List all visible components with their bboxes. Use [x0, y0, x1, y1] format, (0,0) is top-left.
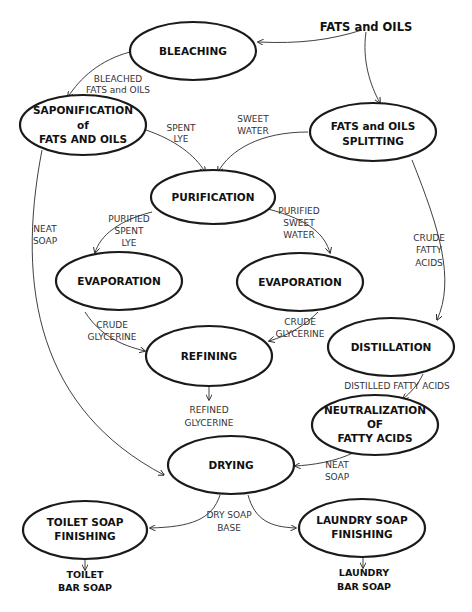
label-purified-sweet-water: SWEET [283, 218, 315, 228]
node-label: DISTILLATION [351, 341, 432, 353]
node-distillation[interactable]: DISTILLATION [328, 318, 454, 376]
label-purified-sweet-water: WATER [283, 230, 314, 240]
label-spent-lye: SPENT [166, 123, 196, 133]
source-fats-and-oils: FATS and OILS [320, 20, 413, 34]
node-label: EVAPORATION [77, 275, 161, 287]
label-neat-soap-right: SOAP [325, 472, 350, 482]
label-bleached: FATS and OILS [86, 85, 150, 95]
node-label: BLEACHING [159, 45, 227, 57]
label-sweet-water: WATER [237, 126, 268, 136]
source-label: FATS and OILS [320, 20, 413, 34]
process-flow-diagram: FATS and OILS BLEACHING SAPONIFICATION o… [0, 0, 472, 612]
node-label: FATS AND OILS [39, 133, 127, 145]
node-label: DRYING [208, 459, 253, 471]
label-crude-glycerine-right: CRUDE [284, 317, 316, 327]
product-label: BAR SOAP [337, 581, 391, 592]
product-label: BAR SOAP [58, 582, 112, 593]
label-crude-glycerine-left: GLYCERINE [87, 332, 136, 342]
label-neat-soap-right: NEAT [325, 460, 349, 470]
label-neat-soap: NEAT [33, 224, 57, 234]
label-purified-spent-lye: PURIFIED [108, 214, 149, 224]
node-label: REFINING [181, 350, 237, 362]
node-refining[interactable]: REFINING [146, 326, 272, 386]
label-crude-glycerine-left: CRUDE [96, 320, 128, 330]
node-label: LAUNDRY SOAP [316, 514, 408, 526]
label-crude-fatty-acids: ACIDS [415, 258, 443, 268]
node-drying[interactable]: DRYING [168, 436, 294, 494]
label-crude-fatty-acids: CRUDE [413, 233, 445, 243]
label-bleached: BLEACHED [94, 74, 143, 84]
label-purified-sweet-water: PURIFIED [278, 206, 319, 216]
node-splitting[interactable]: FATS and OILS SPLITTING [310, 103, 436, 161]
label-sweet-water: SWEET [237, 114, 269, 124]
label-crude-glycerine-right: GLYCERINE [275, 329, 324, 339]
label-spent-lye: LYE [173, 134, 188, 144]
node-label: SAPONIFICATION [33, 104, 133, 116]
node-toilet-soap-finishing[interactable]: TOILET SOAP FINISHING [23, 501, 147, 559]
node-label: SPLITTING [342, 135, 404, 147]
node-label: FINISHING [331, 528, 392, 540]
product-laundry-bar-soap: LAUNDRY BAR SOAP [337, 567, 391, 592]
node-laundry-soap-finishing[interactable]: LAUNDRY SOAP FINISHING [299, 499, 425, 557]
node-purification[interactable]: PURIFICATION [151, 170, 275, 224]
label-neat-soap: SOAP [33, 236, 58, 246]
label-distilled-fatty-acids: DISTILLED FATTY ACIDS [344, 381, 450, 391]
node-label: EVAPORATION [258, 276, 342, 288]
label-crude-fatty-acids: FATTY [416, 245, 443, 255]
edge-drying-to-laundry-finishing [248, 495, 296, 528]
node-evaporation-right[interactable]: EVAPORATION [237, 253, 363, 311]
node-label: NEUTRALIZATION [324, 404, 426, 416]
product-label: LAUNDRY [339, 567, 389, 578]
label-purified-spent-lye: LYE [121, 238, 136, 248]
node-saponification[interactable]: SAPONIFICATION of FATS AND OILS [20, 95, 146, 155]
node-neutralization[interactable]: NEUTRALIZATION OF FATTY ACIDS [312, 395, 438, 455]
label-dry-soap-base: DRY SOAP [206, 510, 252, 520]
node-evaporation-left[interactable]: EVAPORATION [56, 252, 182, 310]
edge-saponification-to-drying [32, 150, 164, 475]
node-label: TOILET SOAP [47, 516, 124, 528]
node-label: OF [367, 418, 383, 430]
node-label: FATS and OILS [331, 120, 415, 132]
label-dry-soap-base: BASE [217, 523, 241, 533]
label-refined-glycerine: GLYCERINE [184, 418, 233, 428]
node-label: FATTY ACIDS [337, 432, 412, 444]
label-purified-spent-lye: SPENT [114, 226, 144, 236]
edge-source-to-splitting [365, 32, 380, 103]
product-label: TOILET [66, 569, 104, 580]
node-label: PURIFICATION [171, 191, 254, 203]
product-toilet-bar-soap: TOILET BAR SOAP [58, 569, 112, 593]
node-bleaching[interactable]: BLEACHING [130, 22, 256, 80]
node-label: FINISHING [54, 530, 115, 542]
label-refined-glycerine: REFINED [189, 405, 228, 415]
edge-splitting-to-purification [218, 132, 308, 172]
node-label: of [77, 119, 89, 131]
